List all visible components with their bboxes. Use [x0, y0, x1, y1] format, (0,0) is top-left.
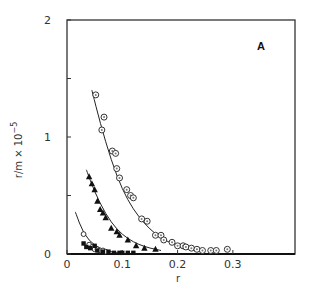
open-circle-dot: [215, 249, 217, 251]
y-axis-label-group: r/m × 10−5: [10, 122, 24, 178]
open-circle-dot: [115, 152, 117, 154]
triangle-point: [94, 198, 100, 204]
open-circle-dot: [103, 116, 105, 118]
y-tick-label: 0: [44, 248, 51, 261]
panel-label: A: [257, 40, 265, 52]
triangle-point: [133, 242, 139, 248]
open-circle-dot: [95, 94, 97, 96]
square-point: [131, 251, 135, 255]
x-tick-label: 0.1: [114, 258, 132, 271]
y-axis-label: r/m × 10−5: [10, 122, 24, 178]
open-circle-dot: [210, 249, 212, 251]
square-point: [126, 251, 130, 255]
data-points: [81, 92, 230, 255]
open-circle-dot: [185, 246, 187, 248]
open-circle-dot: [154, 234, 156, 236]
square-point: [120, 251, 124, 255]
square-point: [92, 244, 96, 248]
x-tick-label: 0: [64, 258, 71, 271]
triangle-point: [86, 173, 92, 179]
axis-ticks: 00.10.20.3012: [44, 14, 242, 271]
fit-curve: [92, 90, 200, 251]
open-circle-dot: [190, 247, 192, 249]
open-circle-dot: [160, 234, 162, 236]
fit-curve: [86, 170, 161, 251]
y-axis-label-text: r/m × 10: [13, 134, 24, 179]
x-tick-label: 0.2: [169, 258, 187, 271]
square-point: [106, 249, 110, 253]
open-circle-dot: [101, 129, 103, 131]
open-circle-dot: [126, 189, 128, 191]
square-point: [88, 246, 92, 250]
x-axis-label: r: [176, 273, 181, 284]
x-tick-label: 0.3: [224, 258, 242, 271]
square-point: [112, 251, 116, 255]
open-circle-dot: [132, 197, 134, 199]
y-tick-label: 2: [44, 14, 51, 27]
fit-curves: [75, 90, 199, 254]
triangle-point: [89, 180, 95, 186]
plot-frame: [67, 20, 295, 254]
open-circle-dot: [177, 245, 179, 247]
y-axis-label-exponent: −5: [10, 122, 19, 134]
open-circle-dot: [119, 177, 121, 179]
open-circle-dot: [116, 168, 118, 170]
square-point: [95, 248, 99, 252]
square-point: [101, 249, 105, 253]
chart-svg: 00.10.20.3012 A r r/m × 10−5: [0, 0, 310, 299]
open-circle-dot: [163, 239, 165, 241]
y-tick-label: 1: [44, 131, 51, 144]
open-circle-dot: [201, 249, 203, 251]
open-circle-dot: [196, 248, 198, 250]
open-circle-dot: [141, 218, 143, 220]
open-circle-dot: [146, 220, 148, 222]
open-circle-dot: [226, 248, 228, 250]
small-circle-point: [81, 232, 86, 237]
open-circle-dot: [171, 241, 173, 243]
square-point: [84, 245, 88, 249]
triangle-point: [108, 225, 114, 231]
plot-border: [67, 20, 295, 254]
